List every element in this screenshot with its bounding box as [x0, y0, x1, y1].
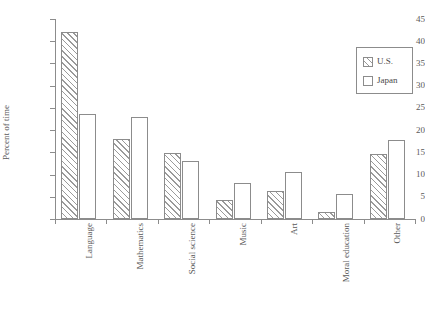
x-tick-label: Moral education — [342, 223, 351, 282]
x-tick-label: Mathematics — [136, 223, 145, 270]
legend: U.S. Japan — [356, 47, 413, 94]
x-tick-mark — [415, 219, 416, 224]
legend-swatch-us-icon — [363, 57, 373, 67]
legend-item-japan[interactable]: Japan — [363, 75, 398, 86]
x-tick-mark — [209, 219, 210, 224]
x-tick-label: Social science — [188, 223, 197, 274]
legend-label-us: U.S. — [377, 57, 393, 66]
bar-chart: Percent of time 051015202530354045 Langu… — [0, 0, 425, 319]
x-tick-mark — [364, 219, 365, 224]
x-tick-label: Music — [239, 223, 248, 246]
bar-japan-moral-education — [336, 194, 353, 219]
bar-us-moral-education — [318, 212, 335, 219]
x-tick-label: Art — [290, 223, 299, 235]
bar-japan-art — [285, 172, 302, 219]
bar-us-other — [370, 154, 387, 219]
bar-japan-music — [234, 183, 251, 219]
x-tick-mark — [106, 219, 107, 224]
bar-us-mathematics — [113, 139, 130, 219]
bar-us-social-science — [164, 153, 181, 219]
bar-us-language — [61, 32, 78, 219]
bar-japan-social-science — [182, 161, 199, 219]
x-tick-mark — [158, 219, 159, 224]
bar-japan-other — [388, 140, 405, 219]
bar-japan-language — [79, 114, 96, 219]
x-axis-line — [55, 219, 415, 220]
legend-swatch-japan-icon — [363, 76, 373, 86]
x-tick-mark — [55, 219, 56, 224]
legend-label-japan: Japan — [377, 76, 398, 85]
x-tick-label: Language — [85, 223, 94, 258]
x-tick-label: Other — [393, 223, 402, 244]
bar-us-music — [216, 200, 233, 219]
bar-us-art — [267, 191, 284, 219]
legend-item-us[interactable]: U.S. — [363, 56, 393, 67]
y-axis-title: Percent of time — [2, 105, 11, 160]
x-tick-mark — [261, 219, 262, 224]
bar-japan-mathematics — [131, 117, 148, 219]
x-tick-mark — [312, 219, 313, 224]
